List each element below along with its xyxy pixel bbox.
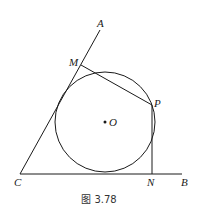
figure-caption: 图 3.78 bbox=[81, 194, 116, 205]
center-dot-O bbox=[104, 121, 107, 124]
label-B: B bbox=[181, 176, 188, 188]
label-C: C bbox=[14, 176, 22, 188]
label-M: M bbox=[68, 56, 79, 68]
label-O: O bbox=[109, 116, 117, 128]
geometry-diagram: A M P O C N B 图 3.78 bbox=[0, 0, 198, 209]
segment-MP bbox=[81, 65, 152, 105]
label-A: A bbox=[96, 17, 104, 29]
label-N: N bbox=[146, 176, 155, 188]
label-P: P bbox=[153, 97, 161, 109]
ray-CA bbox=[20, 30, 100, 174]
